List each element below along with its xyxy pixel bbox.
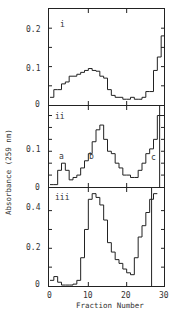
y-axis-title: Absorbance (259 nm): [4, 129, 13, 215]
xtick-20: 20: [121, 291, 131, 300]
axis-ticks: [49, 9, 165, 286]
ytick-iii-0.4: 0.4: [26, 203, 41, 212]
panel-label-ii: ii: [55, 112, 65, 121]
fraction-absorbance-figure: i ii iii a b c 0.2 0.1 0 0.1 0 0.4 0.2 0…: [0, 0, 176, 309]
series-panel-ii: [50, 106, 161, 187]
series-panel-i: [50, 36, 165, 99]
ytick-ii-0.1: 0.1: [26, 145, 41, 154]
panel-iii-frame: [49, 188, 165, 287]
peak-label-b: b: [89, 152, 94, 161]
peak-label-c: c: [151, 153, 156, 162]
x-axis-title: Fraction Number: [76, 301, 144, 309]
ytick-iii-0.2: 0.2: [26, 243, 41, 252]
ytick-i-0: 0: [35, 100, 40, 109]
panel-label-iii: iii: [55, 193, 70, 202]
panel-i-frame: [49, 9, 165, 106]
ytick-i-0.2: 0.2: [26, 25, 41, 34]
panel-label-i: i: [60, 20, 65, 29]
xtick-30: 30: [159, 291, 169, 300]
ytick-ii-0: 0: [35, 183, 40, 192]
series-panel-iii: [50, 188, 157, 286]
ytick-i-0.1: 0.1: [26, 64, 41, 73]
panel-ii-frame: [49, 106, 165, 188]
xtick-10: 10: [83, 291, 93, 300]
ytick-iii-0: 0: [35, 280, 40, 289]
peak-label-a: a: [59, 152, 64, 161]
data-series: [50, 36, 165, 286]
xtick-0: 0: [47, 291, 52, 300]
